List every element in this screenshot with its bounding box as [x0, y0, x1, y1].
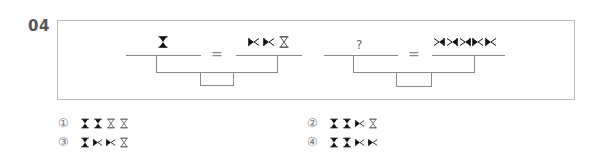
hourglass-filled-icon [93, 118, 103, 129]
hourglass-outline-icon [278, 36, 290, 48]
bowtie-filled-left-icon [355, 118, 365, 129]
bowtie-filled-left-icon [368, 137, 378, 148]
bowtie-filled-left-icon [106, 137, 116, 148]
bowtie-filled-left-icon [248, 36, 260, 48]
equation-2-equals: = [408, 46, 420, 62]
option-4[interactable]: ④ [307, 135, 378, 149]
option-2-symbols [329, 118, 378, 129]
option-1-number: ① [58, 116, 72, 130]
hourglass-filled-icon [329, 137, 339, 148]
equation-2-left-line [324, 55, 398, 56]
option-3-number: ③ [58, 135, 72, 149]
bowtie-filled-right-icon [446, 36, 458, 48]
puzzle-frame [57, 20, 575, 100]
option-3-symbols [80, 137, 129, 148]
equation-1-right-symbols [248, 36, 290, 48]
bowtie-filled-left-icon [93, 137, 103, 148]
option-4-number: ④ [307, 135, 321, 149]
bowtie-filled-left-icon [472, 36, 484, 48]
hourglass-filled-icon [80, 118, 90, 129]
hourglass-outline-icon [119, 118, 129, 129]
equation-2-unknown: ? [356, 38, 362, 52]
equation-1-left-symbols [157, 36, 169, 48]
equation-1-left-line [126, 55, 201, 56]
equation-2-connector-right [474, 55, 475, 73]
hourglass-outline-icon [119, 137, 129, 148]
equation-1-equals: = [211, 46, 223, 62]
equation-2-answer-box [396, 72, 432, 87]
hourglass-filled-icon [80, 137, 90, 148]
equation-1-answer-box [200, 72, 234, 86]
bowtie-filled-left-icon [263, 36, 275, 48]
hourglass-filled-icon [329, 118, 339, 129]
hourglass-filled-icon [342, 118, 352, 129]
bowtie-filled-left-icon [355, 137, 365, 148]
question-number: 04 [28, 17, 50, 35]
option-2-number: ② [307, 116, 321, 130]
bowtie-filled-right-icon [433, 36, 445, 48]
option-2[interactable]: ② [307, 116, 378, 130]
equation-2-right-line [432, 55, 505, 56]
equation-1-connector-right [277, 55, 278, 73]
equation-2-connector-left [353, 55, 354, 73]
equation-1-right-line [236, 55, 302, 56]
bowtie-filled-right-icon [459, 36, 471, 48]
hourglass-outline-icon [106, 118, 116, 129]
equation-2-right-symbols [433, 36, 497, 48]
option-1-symbols [80, 118, 129, 129]
equation-1-connector-left [156, 55, 157, 73]
hourglass-outline-icon [368, 118, 378, 129]
hourglass-filled-icon [157, 36, 169, 48]
option-4-symbols [329, 137, 378, 148]
option-1[interactable]: ① [58, 116, 129, 130]
option-3[interactable]: ③ [58, 135, 129, 149]
hourglass-filled-icon [342, 137, 352, 148]
bowtie-filled-left-icon [485, 36, 497, 48]
